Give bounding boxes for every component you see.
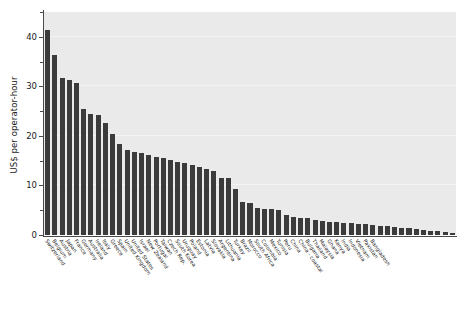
bar xyxy=(81,109,86,235)
bar xyxy=(125,150,130,235)
gridline xyxy=(44,36,456,37)
bar xyxy=(74,83,79,235)
bar xyxy=(247,203,252,235)
bar xyxy=(450,233,455,235)
bar xyxy=(370,225,375,235)
bar xyxy=(313,220,318,235)
bar xyxy=(363,224,368,235)
bar xyxy=(414,229,419,235)
bar xyxy=(197,167,202,235)
bar xyxy=(168,160,173,235)
bar xyxy=(110,134,115,235)
chart-figure: US$ per operator-hour 010203040 Switzerl… xyxy=(0,0,470,315)
bars-container xyxy=(44,12,456,235)
y-axis-ticks: 010203040 xyxy=(0,12,43,236)
y-axis-line xyxy=(43,10,44,237)
y-tick-label: 10 xyxy=(26,180,37,190)
bar xyxy=(276,210,281,235)
bar xyxy=(356,224,361,235)
bar xyxy=(262,209,267,235)
bar xyxy=(219,178,224,235)
bar xyxy=(399,228,404,235)
x-axis-line xyxy=(43,236,457,237)
bar xyxy=(378,226,383,235)
bar xyxy=(428,231,433,235)
bar xyxy=(175,162,180,235)
bar xyxy=(327,222,332,235)
bar xyxy=(52,55,57,235)
bar xyxy=(233,189,238,235)
bar xyxy=(226,178,231,235)
y-tick-label: 40 xyxy=(26,32,37,42)
plot-area xyxy=(44,12,456,235)
bar xyxy=(298,218,303,235)
bar xyxy=(190,165,195,235)
y-tick-label: 30 xyxy=(26,81,37,91)
bar xyxy=(392,227,397,235)
bar xyxy=(139,153,144,235)
bar xyxy=(67,80,72,235)
bar xyxy=(161,158,166,235)
bar xyxy=(349,223,354,235)
bar xyxy=(435,231,440,235)
bar xyxy=(334,222,339,235)
bar xyxy=(204,169,209,235)
bar xyxy=(88,114,93,235)
bar xyxy=(240,202,245,235)
bar xyxy=(255,208,260,235)
bar xyxy=(284,215,289,235)
bar xyxy=(443,232,448,235)
bar xyxy=(60,78,65,235)
bar xyxy=(154,157,159,235)
bar xyxy=(421,230,426,235)
bar xyxy=(269,209,274,235)
y-tick-label: 20 xyxy=(26,131,37,141)
bar xyxy=(132,152,137,235)
bar xyxy=(291,217,296,235)
y-tick-label: 0 xyxy=(32,230,37,240)
bar xyxy=(96,115,101,235)
bar xyxy=(117,144,122,235)
bar xyxy=(305,218,310,235)
bar xyxy=(406,228,411,235)
bar xyxy=(182,163,187,235)
bar xyxy=(146,155,151,235)
x-axis-labels: SwitzerlandBelgiumAustriaJapanFranceGerm… xyxy=(44,238,456,315)
bar xyxy=(103,123,108,235)
bar xyxy=(385,226,390,235)
bar xyxy=(45,30,50,235)
bar xyxy=(320,221,325,235)
gridline xyxy=(44,85,456,86)
bar xyxy=(341,223,346,235)
bar xyxy=(211,171,216,235)
